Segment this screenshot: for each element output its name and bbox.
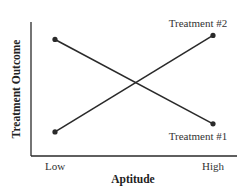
- series-label-treatment-1: Treatment #1: [169, 130, 228, 142]
- series-line-treatment-2: [55, 35, 213, 131]
- x-tick-label-high: High: [202, 160, 225, 172]
- chart: Treatment #1Treatment #2 Low High Aptitu…: [0, 0, 244, 194]
- data-point-treatment-2-low: [52, 129, 57, 134]
- x-tick-label-low: Low: [45, 160, 65, 172]
- x-axis-title: Aptitude: [111, 173, 154, 186]
- data-point-treatment-2-high: [210, 33, 215, 38]
- series-line-treatment-1: [55, 39, 213, 123]
- series-label-treatment-2: Treatment #2: [169, 17, 228, 29]
- y-axis-title: Treatment Outcome: [10, 40, 22, 139]
- data-point-treatment-1-low: [52, 37, 57, 42]
- data-point-treatment-1-high: [210, 121, 215, 126]
